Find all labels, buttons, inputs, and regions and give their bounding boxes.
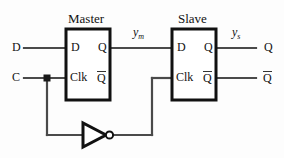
slave-title: Slave	[178, 12, 207, 25]
slave-pin-qbar-text: Q	[203, 71, 212, 84]
signal-ym-sub: m	[138, 32, 144, 41]
signal-ys-sub: s	[237, 32, 240, 41]
output-label-q: Q	[264, 41, 273, 53]
input-label-c: C	[12, 71, 20, 83]
signal-label-ym: ym	[133, 26, 144, 41]
signal-label-ys: ys	[232, 26, 240, 41]
master-pin-qbar: Q	[97, 71, 106, 84]
inverter-bubble-icon	[106, 131, 113, 138]
slave-pin-qbar: Q	[203, 71, 212, 84]
junction-dot-clock	[44, 75, 51, 82]
master-pin-qbar-text: Q	[97, 71, 106, 84]
master-pin-clk: Clk	[70, 71, 87, 83]
output-label-qbar-text: Q	[263, 71, 272, 84]
diagram-canvas	[0, 0, 284, 158]
slave-pin-q: Q	[204, 41, 213, 53]
inverter-triangle	[83, 123, 106, 147]
slave-pin-d: D	[177, 41, 186, 53]
master-title: Master	[68, 12, 104, 25]
master-pin-q: Q	[98, 41, 107, 53]
wire-group	[24, 48, 256, 135]
circuit-diagram: Master Slave D Q Clk Q D Q Clk Q D C Q Q…	[0, 0, 284, 158]
output-label-qbar: Q	[263, 71, 272, 84]
slave-pin-clk: Clk	[176, 71, 193, 83]
input-label-d: D	[12, 41, 21, 53]
master-pin-d: D	[71, 41, 80, 53]
